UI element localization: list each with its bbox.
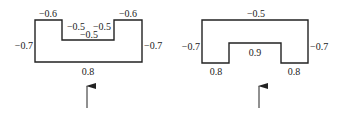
label-right-side: −0.7: [310, 41, 328, 52]
left-section-outline: [35, 20, 142, 62]
label-inner-top: 0.9: [249, 47, 262, 58]
label-bottom: 0.8: [82, 66, 95, 77]
label-bottom-right: 0.8: [288, 66, 301, 77]
label-left-side: −0.7: [15, 40, 33, 51]
label-right-side: −0.7: [144, 40, 162, 51]
left-section: −0.6 −0.6 −0.5 −0.5 −0.5 −0.7 −0.7 0.8: [15, 8, 162, 108]
label-left-side: −0.7: [182, 41, 200, 52]
right-section: −0.5 −0.7 −0.7 0.9 0.8 0.8: [182, 8, 328, 108]
wind-pressure-coefficient-diagram: −0.6 −0.6 −0.5 −0.5 −0.5 −0.7 −0.7 0.8 −…: [0, 0, 343, 118]
label-notch-bottom: −0.5: [80, 29, 98, 40]
label-top: −0.5: [247, 8, 265, 19]
label-top-right: −0.6: [119, 8, 137, 19]
label-bottom-left: 0.8: [210, 66, 223, 77]
label-top-left: −0.6: [39, 8, 57, 19]
